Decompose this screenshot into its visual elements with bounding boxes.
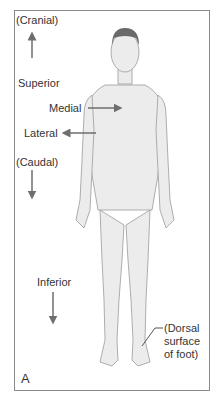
label-dorsal-1: (Dorsal bbox=[164, 322, 199, 334]
label-lateral: Lateral bbox=[24, 127, 58, 139]
label-cranial: (Cranial) bbox=[16, 14, 58, 26]
label-caudal: (Caudal) bbox=[16, 156, 58, 168]
panel-label: A bbox=[21, 373, 30, 385]
label-medial: Medial bbox=[49, 102, 81, 114]
label-superior: Superior bbox=[18, 77, 60, 89]
label-dorsal-3: of foot) bbox=[164, 348, 198, 360]
human-body-icon bbox=[76, 32, 174, 366]
label-dorsal-2: surface bbox=[164, 335, 200, 347]
label-inferior: Inferior bbox=[37, 276, 71, 288]
